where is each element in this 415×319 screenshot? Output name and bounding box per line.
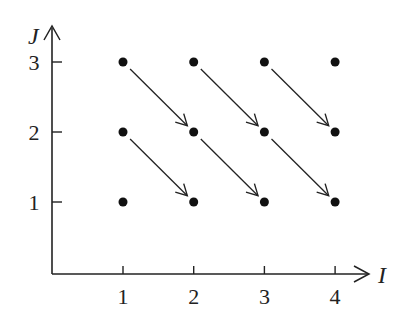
lattice-point <box>119 198 128 207</box>
lattice-point <box>331 128 340 137</box>
x-axis-label: I <box>377 262 387 288</box>
lattice-point <box>331 198 340 207</box>
lattice-points <box>119 58 340 207</box>
lattice-point <box>260 58 269 67</box>
x-tick-label: 1 <box>118 284 129 309</box>
axis-ticks: 1234123 <box>29 50 341 309</box>
y-tick-label: 2 <box>29 120 40 145</box>
dependence-arrow <box>130 69 187 126</box>
lattice-point <box>189 198 198 207</box>
dependence-arrows <box>130 69 329 196</box>
lattice-plot: J I 1234123 <box>0 0 415 319</box>
dependence-arrow <box>272 139 329 196</box>
y-tick-label: 3 <box>29 50 40 75</box>
x-tick-label: 4 <box>330 284 341 309</box>
dependence-arrow <box>130 139 187 196</box>
dependence-arrow <box>201 69 258 126</box>
lattice-point <box>189 128 198 137</box>
iteration-space-diagram: J I 1234123 <box>0 0 415 319</box>
dependence-arrow <box>272 69 329 126</box>
y-tick-label: 1 <box>29 190 40 215</box>
y-axis-label: J <box>28 23 40 49</box>
lattice-point <box>119 128 128 137</box>
x-tick-label: 2 <box>188 284 199 309</box>
lattice-point <box>119 58 128 67</box>
lattice-point <box>189 58 198 67</box>
lattice-point <box>260 128 269 137</box>
lattice-point <box>331 58 340 67</box>
dependence-arrow <box>201 139 258 196</box>
lattice-point <box>260 198 269 207</box>
x-tick-label: 3 <box>259 284 270 309</box>
